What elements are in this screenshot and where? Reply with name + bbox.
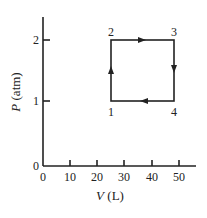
svg-text:0: 0 — [40, 170, 46, 184]
svg-text:20: 20 — [91, 170, 103, 184]
svg-text:4: 4 — [171, 105, 177, 119]
svg-text:50: 50 — [173, 170, 185, 184]
svg-text:30: 30 — [118, 170, 130, 184]
x-axis-label: V (L) — [96, 188, 124, 203]
y-tick-labels: 2 1 0 — [33, 33, 39, 173]
x-tick-labels: 0 10 20 30 40 50 — [40, 170, 185, 184]
arrow-right-icon — [138, 37, 146, 43]
svg-text:3: 3 — [171, 25, 177, 39]
arrow-down-icon — [171, 65, 177, 73]
svg-text:2: 2 — [33, 33, 39, 47]
svg-text:40: 40 — [146, 170, 158, 184]
svg-text:1: 1 — [108, 105, 114, 119]
svg-text:2: 2 — [108, 25, 114, 39]
svg-text:1: 1 — [33, 94, 39, 108]
direction-arrows — [108, 37, 177, 104]
svg-text:0: 0 — [33, 159, 39, 173]
svg-text:10: 10 — [64, 170, 76, 184]
y-axis-label: P (atm) — [8, 72, 23, 112]
arrow-left-icon — [140, 98, 148, 104]
pv-diagram: 2 1 0 0 10 20 30 40 50 V (L) P (atm) 1 2… — [0, 0, 207, 218]
arrow-up-icon — [108, 66, 114, 74]
cycle-path — [111, 40, 174, 101]
